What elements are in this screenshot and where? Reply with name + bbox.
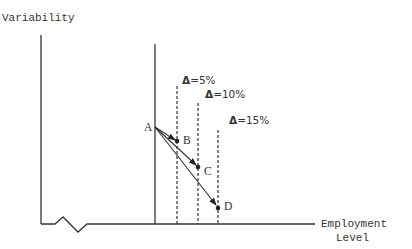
x-axis-with-break	[41, 217, 315, 232]
point-d	[216, 206, 221, 211]
arrow-a-to-c	[155, 127, 196, 165]
point-c	[196, 165, 201, 170]
arrow-a-to-d	[155, 127, 216, 205]
diagram-canvas	[0, 0, 412, 249]
arrow-a-to-b	[155, 127, 175, 140]
point-b	[175, 139, 180, 144]
